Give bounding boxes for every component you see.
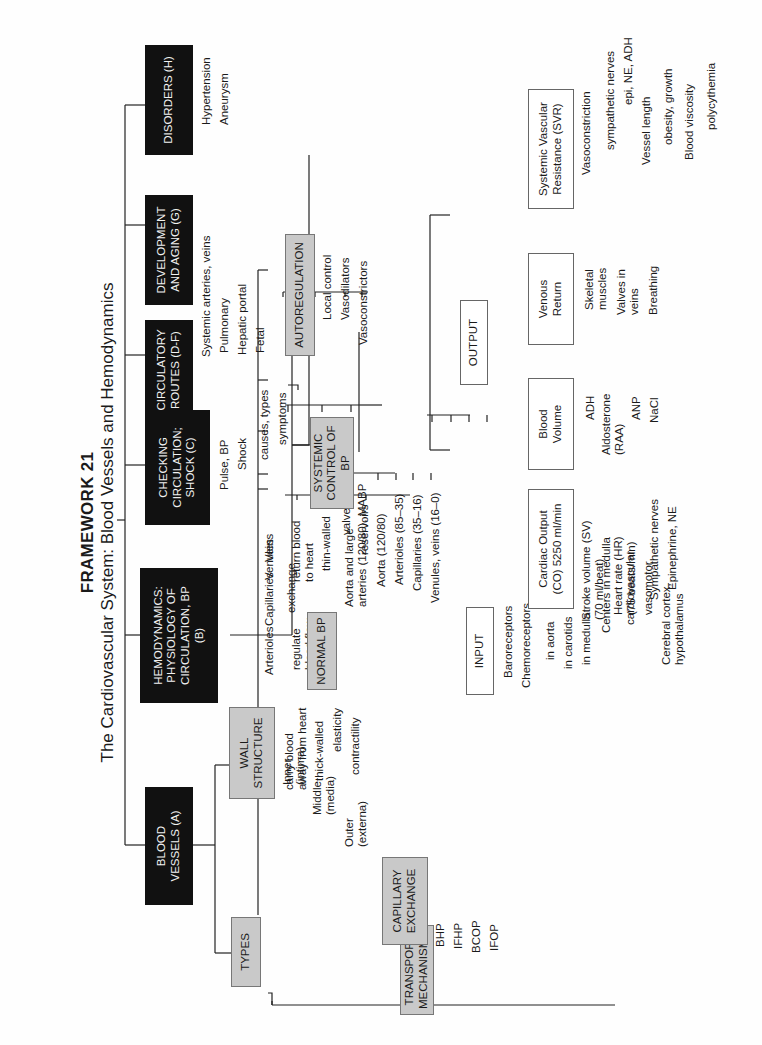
venous-return-item: Skeletal muscles bbox=[583, 268, 609, 310]
blood-viscosity-item: polycythemia bbox=[705, 63, 718, 130]
arteries-trait: elasticity bbox=[331, 708, 344, 752]
cardiac-output-box[interactable]: Cardiac Output (CO) 5250 ml/min bbox=[528, 489, 574, 609]
blood-volume-item: ANP bbox=[630, 396, 643, 420]
vasoconstriction-item: sympathetic nerves bbox=[604, 51, 617, 150]
normal-bp-box[interactable]: NORMAL BP bbox=[307, 612, 337, 690]
chemo-item: in carotids bbox=[562, 617, 575, 669]
venous-return-item: Valves in veins bbox=[615, 269, 641, 315]
disorders-item: Aneurysm bbox=[218, 73, 231, 125]
svr-box[interactable]: Systemic Vascular Resistance (SVR) bbox=[528, 89, 574, 209]
blood-volume-item: Aldosterone (RAA) bbox=[600, 394, 626, 455]
types-capillaries: Capillaries bbox=[263, 572, 276, 626]
disorders-item: Hypertension bbox=[200, 57, 213, 125]
types-veins: Veins bbox=[263, 534, 276, 562]
routes-item: Fetal bbox=[254, 327, 267, 353]
routes-item: Pulmonary bbox=[218, 298, 231, 353]
types-arterioles: Arterioles bbox=[263, 626, 276, 675]
chemo-item: in medulla bbox=[580, 613, 593, 665]
topic-checking-circulation[interactable]: CHECKING CIRCULATION; SHOCK (C) bbox=[145, 410, 210, 525]
topic-hemodynamics[interactable]: HEMODYNAMICS: PHYSIOLOGY OF CIRCULATION,… bbox=[140, 568, 218, 703]
normal-bp-item: Capillaries (35–16) bbox=[411, 494, 424, 591]
capillary-exchange-box[interactable]: CAPILLARY EXCHANGE bbox=[382, 857, 428, 945]
capillary-exchange-item: BHP bbox=[434, 923, 447, 947]
svr-vessel-length: Vessel length bbox=[640, 97, 653, 165]
topic-development-aging[interactable]: DEVELOPMENT AND AGING (G) bbox=[145, 195, 193, 305]
shock-item: symptoms bbox=[276, 393, 289, 445]
output-box[interactable]: OUTPUT bbox=[460, 300, 488, 385]
wall-structure-item: Middle (media) bbox=[311, 776, 337, 815]
capillary-exchange-item: BCOP bbox=[470, 920, 483, 953]
normal-bp-item: Arterioles (85–35) bbox=[393, 494, 406, 585]
checking-item: Shock bbox=[236, 438, 249, 470]
systemic-control-box[interactable]: SYSTEMIC CONTROL OF BP bbox=[310, 417, 354, 509]
capillary-exchange-item: IFHP bbox=[452, 923, 465, 949]
topic-disorders[interactable]: DISORDERS (H) bbox=[145, 45, 193, 155]
arteries-trait: thick-walled bbox=[313, 721, 326, 781]
topic-blood-vessels[interactable]: BLOOD VESSELS (A) bbox=[145, 787, 193, 905]
checking-item: Pulse, BP bbox=[218, 440, 231, 491]
arteries-trait: contractility bbox=[349, 717, 362, 775]
topic-circulatory-routes[interactable]: CIRCULATORY ROUTES (D-F) bbox=[145, 320, 193, 420]
autoregulation-item: Local control bbox=[321, 255, 334, 320]
venous-return-box[interactable]: Venous Return bbox=[528, 253, 574, 345]
input-baroreceptors: Baroreceptors bbox=[502, 606, 515, 678]
autoregulation-item: Vasoconstrictors bbox=[357, 261, 370, 345]
venous-return-item: Breathing bbox=[647, 266, 660, 315]
blood-volume-item: NaCl bbox=[648, 397, 661, 423]
normal-bp-item: Venules, veins (16–0) bbox=[429, 492, 442, 603]
wall-structure-item: Outer (externa) bbox=[343, 801, 369, 847]
shock-item: causes, types bbox=[258, 390, 271, 460]
framework-diagram: FRAMEWORK 21 The Cardiovascular System: … bbox=[0, 0, 762, 1045]
input-chemoreceptors: Chemoreceptors bbox=[520, 603, 533, 688]
types-box[interactable]: TYPES bbox=[231, 917, 261, 987]
capillary-exchange-item: IFOP bbox=[488, 924, 501, 951]
blood-volume-box[interactable]: Blood Volume bbox=[528, 378, 574, 470]
routes-item: Systemic arteries, veins bbox=[200, 236, 213, 357]
blood-volume-item: ADH bbox=[584, 396, 597, 420]
heart-rate-item: Sympathetic nerves bbox=[648, 499, 661, 600]
vessel-length-item: obesity, growth bbox=[662, 69, 675, 146]
input-cerebral: Cerebral cortex, hypothalamus bbox=[660, 583, 686, 665]
veins-trait: return blood to heart bbox=[290, 521, 316, 582]
autoregulation-item: Vasodilators bbox=[339, 258, 352, 320]
cardiac-output-item: Stroke volume (SV) (70 ml/beat) bbox=[580, 520, 606, 620]
wall-structure-item: Inner (intima) bbox=[281, 747, 307, 785]
heart-rate-item: Epinephrine, NE bbox=[666, 506, 679, 590]
autoregulation-box[interactable]: AUTOREGULATION bbox=[285, 234, 315, 356]
normal-bp-item: Aorta (120/80) bbox=[375, 513, 388, 587]
routes-item: Hepatic portal bbox=[236, 284, 249, 355]
wall-structure-box[interactable]: WALL STRUCTURE bbox=[229, 707, 275, 799]
svr-blood-viscosity: Blood viscosity bbox=[683, 84, 696, 160]
cardiac-output-item: Heart rate (HR) (75 beats/min) bbox=[612, 536, 638, 615]
veins-trait: thin-walled bbox=[320, 516, 333, 571]
input-box[interactable]: INPUT bbox=[466, 607, 494, 695]
chemo-item: in aorta bbox=[544, 622, 557, 660]
svr-vasoconstriction: Vasoconstriction bbox=[580, 91, 593, 175]
vasoconstriction-item: epi, NE, ADH bbox=[622, 37, 635, 105]
